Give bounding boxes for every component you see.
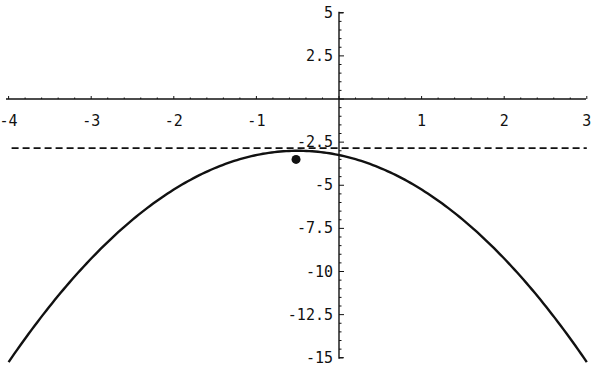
x-tick-label: -2	[165, 112, 183, 130]
y-tick-label: -10	[306, 263, 333, 281]
marked-point-dot	[292, 155, 301, 164]
x-tick-label: 3	[582, 112, 591, 130]
parabola-plot: -4-3-2-112352.5-2.5-5-7.5-10-12.5-15	[0, 0, 592, 368]
x-tick-label: -4	[0, 112, 18, 130]
x-tick-label: -3	[82, 112, 100, 130]
x-tick-label: 2	[500, 112, 509, 130]
y-tick-label: -7.5	[297, 219, 333, 237]
chart-container: -4-3-2-112352.5-2.5-5-7.5-10-12.5-15	[0, 0, 592, 368]
tick-labels: -4-3-2-112352.5-2.5-5-7.5-10-12.5-15	[0, 4, 591, 367]
y-tick-label: -15	[306, 349, 333, 367]
y-tick-label: 5	[324, 4, 333, 22]
y-tick-label: 2.5	[306, 47, 333, 65]
x-tick-label: -1	[247, 112, 265, 130]
parabola-curve	[9, 151, 587, 362]
marked-points	[292, 155, 301, 164]
y-tick-label: -5	[315, 176, 333, 194]
y-tick-label: -12.5	[288, 306, 333, 324]
x-tick-label: 1	[417, 112, 426, 130]
